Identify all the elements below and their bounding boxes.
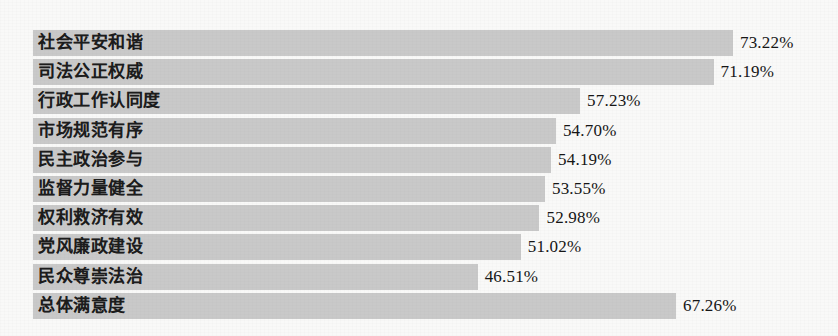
bar-value-label: 46.51% [485, 264, 539, 290]
chart-bar-row: 监督力量健全53.55% [0, 176, 838, 202]
chart-bar-row: 社会平安和谐73.22% [0, 30, 838, 56]
bar-category-label: 监督力量健全 [38, 176, 143, 202]
chart-bar-row: 权利救济有效52.98% [0, 205, 838, 231]
bar-value-label: 57.23% [587, 88, 641, 114]
bar-category-label: 行政工作认同度 [38, 88, 161, 114]
chart-bar-row: 市场规范有序54.70% [0, 118, 838, 144]
bar-value-label: 71.19% [721, 59, 775, 85]
bar-value-label: 52.98% [546, 205, 600, 231]
bar-category-label: 权利救济有效 [38, 205, 143, 231]
chart-bar-row: 行政工作认同度57.23% [0, 88, 838, 114]
bar-category-label: 民众尊崇法治 [38, 264, 143, 290]
bar-category-label: 社会平安和谐 [38, 30, 143, 56]
bar-value-label: 54.70% [563, 118, 617, 144]
bar-value-label: 53.55% [552, 176, 606, 202]
bar-value-label: 67.26% [683, 293, 737, 319]
bar-value-label: 73.22% [740, 30, 794, 56]
bar-category-label: 民主政治参与 [38, 147, 143, 173]
chart-bar-row: 民众尊崇法治46.51% [0, 264, 838, 290]
bar-chart: 社会平安和谐73.22%司法公正权威71.19%行政工作认同度57.23%市场规… [0, 0, 838, 336]
chart-bar-row: 司法公正权威71.19% [0, 59, 838, 85]
bar-fill [33, 293, 676, 319]
chart-bar-row: 民主政治参与54.19% [0, 147, 838, 173]
bar-category-label: 司法公正权威 [38, 59, 143, 85]
chart-plot-area: 社会平安和谐73.22%司法公正权威71.19%行政工作认同度57.23%市场规… [0, 0, 838, 336]
bar-value-label: 51.02% [528, 234, 582, 260]
chart-bar-row: 党风廉政建设51.02% [0, 234, 838, 260]
chart-bar-row: 总体满意度67.26% [0, 293, 838, 319]
bar-category-label: 总体满意度 [38, 293, 126, 319]
bar-category-label: 党风廉政建设 [38, 234, 143, 260]
bar-track [33, 293, 676, 319]
bar-value-label: 54.19% [558, 147, 612, 173]
bar-category-label: 市场规范有序 [38, 118, 143, 144]
